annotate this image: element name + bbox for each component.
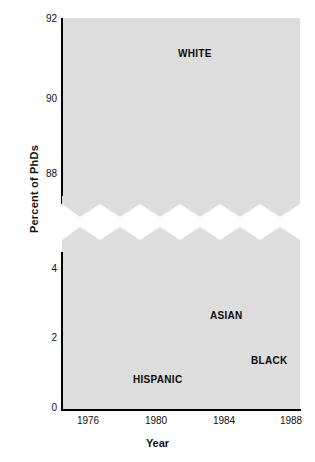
top-ytick-88: 88: [27, 168, 57, 179]
x-axis-spine: [61, 409, 301, 411]
x-axis-title: Year: [0, 437, 315, 449]
series-label-asian: ASIAN: [210, 310, 243, 321]
top-panel-white: [62, 18, 300, 204]
xtick-1976: 1976: [68, 415, 108, 426]
xtick-1980: 1980: [136, 415, 176, 426]
y-axis-title: Percent of PhDs: [28, 109, 40, 269]
top-plot-background: [62, 18, 300, 204]
bottom-ytick-2: 2: [27, 332, 57, 343]
top-y-axis-spine: [61, 18, 63, 204]
xtick-1984: 1984: [204, 415, 244, 426]
series-label-black: BLACK: [251, 355, 288, 366]
bottom-plot-background: [62, 252, 300, 410]
series-label-white: WHITE: [178, 48, 212, 59]
bottom-ytick-4: 4: [27, 263, 57, 274]
chart-figure: Percent of PhDs 92 90 88 WHITE 4 2 0 ASI…: [0, 0, 315, 462]
series-label-hispanic: HISPANIC: [133, 374, 182, 385]
bottom-ytick-0: 0: [27, 402, 57, 413]
top-ytick-92: 92: [27, 13, 57, 24]
xtick-1988: 1988: [271, 415, 311, 426]
bottom-panel-minorities: [62, 252, 300, 410]
axis-break-zigzag: [62, 196, 300, 260]
bottom-y-axis-spine: [61, 252, 63, 410]
top-ytick-90: 90: [27, 93, 57, 104]
